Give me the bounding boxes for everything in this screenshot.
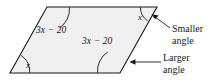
angle-label-bottom-right: 3x − 20 [82,36,112,46]
smaller-angle-callout: Smaller angle [172,23,203,46]
larger-angle-leader [130,59,162,64]
smaller-angle-leader [152,14,171,28]
parallelogram-angle-figure: 3x − 20 3x − 20 x x Smaller angle Larger… [0,0,213,83]
smaller-angle-callout-line1: Smaller [172,23,203,35]
smaller-angle-callout-line2: angle [172,35,203,47]
larger-angle-callout-line2: angle [163,64,189,76]
angle-label-top-left: 3x − 20 [36,25,66,35]
larger-angle-callout-line1: Larger [163,52,189,64]
angle-label-bottom-left: x [26,60,30,70]
larger-angle-callout: Larger angle [163,52,189,75]
angle-label-top-right: x [138,12,142,22]
